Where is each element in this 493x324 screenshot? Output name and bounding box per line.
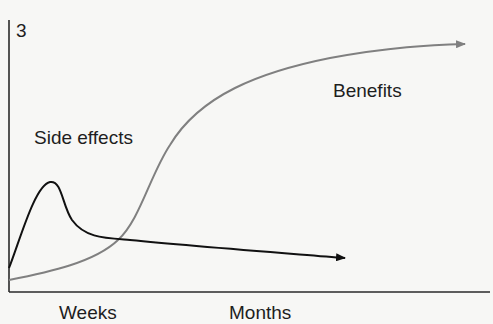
side-effects-curve (9, 182, 345, 268)
side-effects-label: Side effects (34, 128, 133, 147)
x-tick-weeks: Weeks (59, 303, 117, 322)
y-max-tick-label: 3 (16, 21, 27, 40)
chart-figure: 3 Side effects Benefits Weeks Months (0, 0, 493, 324)
x-tick-months: Months (229, 303, 291, 322)
benefits-label: Benefits (333, 81, 402, 100)
chart-svg (0, 0, 493, 324)
